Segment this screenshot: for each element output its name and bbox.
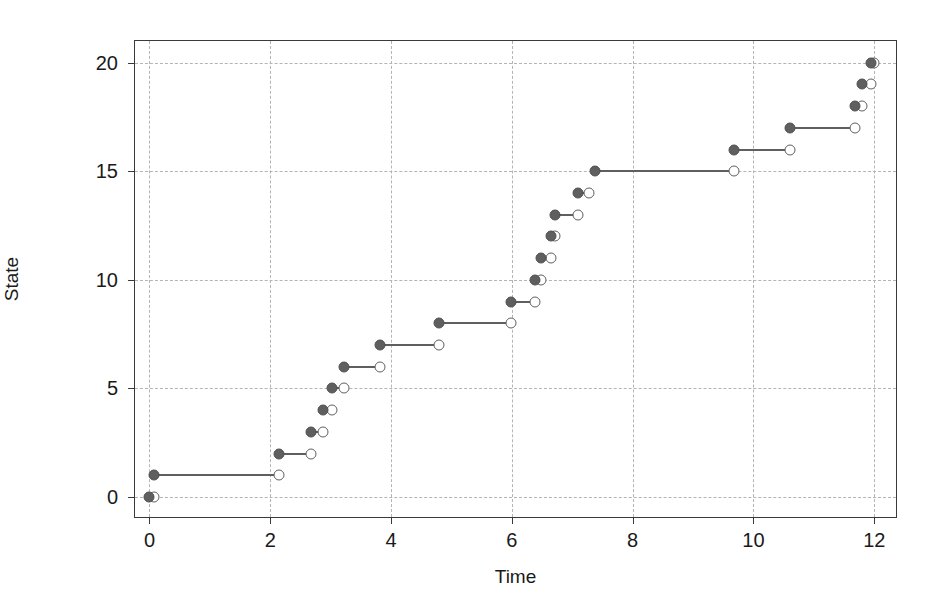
gridline-y-15 — [135, 171, 896, 172]
open-endpoint-marker-state-1 — [274, 470, 285, 481]
gridline-x-8 — [633, 41, 634, 517]
open-endpoint-marker-state-17 — [849, 122, 860, 133]
y-tick-label-15: 15 — [96, 160, 118, 183]
y-tick-label-0: 0 — [107, 486, 118, 509]
closed-endpoint-marker-state-10 — [529, 274, 540, 285]
open-endpoint-marker-state-9 — [529, 296, 540, 307]
gridline-y-5 — [135, 388, 896, 389]
x-tick-label-6: 6 — [506, 529, 517, 552]
closed-endpoint-marker-state-1 — [149, 470, 160, 481]
closed-endpoint-marker-state-14 — [573, 188, 584, 199]
gridline-x-2 — [270, 41, 271, 517]
open-endpoint-marker-state-13 — [573, 209, 584, 220]
y-tick-label-20: 20 — [96, 51, 118, 74]
closed-endpoint-marker-state-11 — [535, 253, 546, 264]
open-endpoint-marker-state-5 — [338, 383, 349, 394]
closed-endpoint-marker-state-2 — [274, 448, 285, 459]
step-segment-state-16 — [734, 149, 790, 151]
open-endpoint-marker-state-16 — [784, 144, 795, 155]
tick-x-6 — [512, 517, 513, 524]
closed-endpoint-marker-state-9 — [505, 296, 516, 307]
tick-y-5 — [128, 388, 135, 389]
open-endpoint-marker-state-11 — [546, 253, 557, 264]
gridline-x-4 — [391, 41, 392, 517]
closed-endpoint-marker-state-3 — [306, 426, 317, 437]
y-axis-label: State — [1, 257, 23, 301]
gridline-x-12 — [874, 41, 875, 517]
closed-endpoint-marker-state-16 — [729, 144, 740, 155]
y-tick-label-5: 5 — [107, 377, 118, 400]
closed-endpoint-marker-state-17 — [784, 122, 795, 133]
closed-endpoint-marker-state-8 — [434, 318, 445, 329]
closed-endpoint-marker-state-19 — [857, 79, 868, 90]
gridline-x-0 — [149, 41, 150, 517]
step-segment-state-8 — [439, 322, 510, 324]
gridline-y-20 — [135, 63, 896, 64]
x-tick-label-8: 8 — [627, 529, 638, 552]
tick-y-0 — [128, 497, 135, 498]
tick-x-10 — [753, 517, 754, 524]
closed-endpoint-marker-state-20 — [866, 57, 877, 68]
x-tick-label-12: 12 — [863, 529, 885, 552]
open-endpoint-marker-state-14 — [584, 188, 595, 199]
x-tick-label-0: 0 — [144, 529, 155, 552]
step-segment-state-15 — [595, 170, 734, 172]
plot-area: 024681012 05101520 — [134, 40, 897, 518]
gridline-x-6 — [512, 41, 513, 517]
x-axis-label: Time — [134, 566, 897, 588]
chart-figure: 024681012 05101520 Time State — [0, 0, 933, 608]
x-tick-label-4: 4 — [386, 529, 397, 552]
open-endpoint-marker-state-3 — [318, 426, 329, 437]
closed-endpoint-marker-state-12 — [546, 231, 557, 242]
y-tick-label-10: 10 — [96, 268, 118, 291]
tick-x-12 — [874, 517, 875, 524]
closed-endpoint-marker-state-7 — [375, 340, 386, 351]
tick-y-15 — [128, 171, 135, 172]
tick-x-4 — [391, 517, 392, 524]
closed-endpoint-marker-state-6 — [338, 361, 349, 372]
open-endpoint-marker-state-2 — [306, 448, 317, 459]
closed-endpoint-marker-state-5 — [327, 383, 338, 394]
x-tick-label-2: 2 — [265, 529, 276, 552]
tick-y-10 — [128, 280, 135, 281]
open-endpoint-marker-state-8 — [505, 318, 516, 329]
step-segment-state-1 — [154, 474, 279, 476]
closed-endpoint-marker-state-13 — [550, 209, 561, 220]
closed-endpoint-marker-state-15 — [590, 166, 601, 177]
tick-x-2 — [270, 517, 271, 524]
gridline-y-0 — [135, 497, 896, 498]
open-endpoint-marker-state-15 — [729, 166, 740, 177]
open-endpoint-marker-state-6 — [375, 361, 386, 372]
gridline-x-10 — [753, 41, 754, 517]
x-tick-label-10: 10 — [742, 529, 764, 552]
tick-x-8 — [633, 517, 634, 524]
step-segment-state-17 — [790, 127, 855, 129]
closed-endpoint-marker-state-0 — [144, 492, 155, 503]
open-endpoint-marker-state-7 — [434, 340, 445, 351]
tick-y-20 — [128, 63, 135, 64]
step-segment-state-7 — [380, 344, 439, 346]
gridline-y-10 — [135, 280, 896, 281]
closed-endpoint-marker-state-4 — [318, 405, 329, 416]
tick-x-0 — [149, 517, 150, 524]
closed-endpoint-marker-state-18 — [849, 101, 860, 112]
